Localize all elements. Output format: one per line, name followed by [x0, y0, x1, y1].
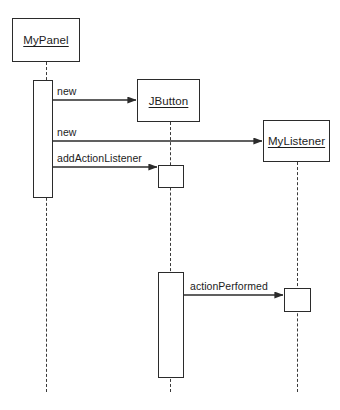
message-label-new-jbutton: new — [57, 85, 76, 97]
activation-bar-mypanel[interactable] — [33, 80, 53, 198]
participant-box-jbutton[interactable]: JButton — [137, 79, 200, 122]
participant-label-mypanel: MyPanel — [23, 34, 68, 46]
participant-label-jbutton: JButton — [149, 95, 189, 107]
participant-box-mylistener[interactable]: MyListener — [263, 120, 330, 162]
participant-label-mylistener: MyListener — [268, 135, 325, 147]
sequence-diagram-canvas: MyPanel JButton MyListener new new addAc… — [0, 0, 340, 410]
message-label-new-mylistener: new — [57, 126, 76, 138]
participant-box-mypanel[interactable]: MyPanel — [12, 18, 80, 62]
message-label-actionperformed: actionPerformed — [190, 280, 268, 292]
activation-bar-mylistener-handler[interactable] — [284, 288, 311, 312]
lifeline-mylistener — [297, 162, 298, 392]
activation-bar-jbutton-add-listener[interactable] — [158, 165, 184, 188]
message-label-addactionlistener: addActionListener — [57, 152, 142, 164]
activation-bar-jbutton-event[interactable] — [158, 272, 184, 378]
